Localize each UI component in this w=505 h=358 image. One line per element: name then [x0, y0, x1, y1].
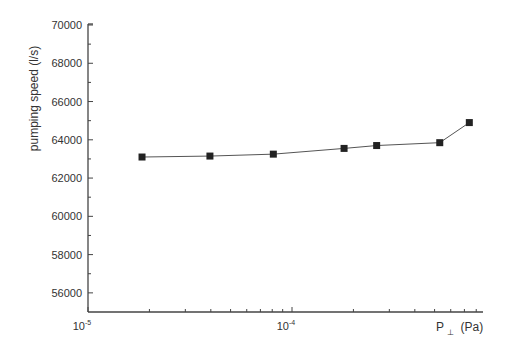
data-point-marker	[139, 154, 146, 161]
x-axis-ticks: 10-510-4	[73, 307, 476, 332]
y-tick-label: 56000	[51, 287, 82, 299]
x-tick-label: 10-4	[277, 319, 296, 332]
x-tick-label-exponent: -5	[85, 319, 91, 326]
y-tick-label: 62000	[51, 172, 82, 184]
x-axis-title-unit: (Pa)	[460, 320, 483, 334]
data-point-marker	[270, 151, 277, 158]
data-point-marker	[436, 139, 443, 146]
x-axis-title: P ⊥ (Pa)	[436, 320, 483, 338]
x-tick-label-exponent: -4	[289, 319, 295, 326]
x-axis-title-symbol: P	[436, 320, 444, 334]
y-tick-label: 70000	[51, 19, 82, 31]
y-tick-label: 64000	[51, 134, 82, 146]
chart: 5600058000600006200064000660006800070000…	[0, 0, 505, 358]
series-line	[142, 123, 469, 157]
data-point-marker	[373, 142, 380, 149]
y-tick-label: 66000	[51, 96, 82, 108]
y-tick-label: 68000	[51, 57, 82, 69]
y-axis-title: pumping speed (l/s)	[27, 46, 41, 151]
data-series	[139, 119, 473, 160]
y-tick-label: 60000	[51, 210, 82, 222]
axes	[88, 24, 483, 312]
x-tick-label-base: 10	[277, 320, 289, 332]
x-tick-label-base: 10	[73, 320, 85, 332]
y-tick-label: 58000	[51, 249, 82, 261]
y-axis-ticks: 5600058000600006200064000660006800070000	[51, 19, 93, 299]
data-point-marker	[341, 145, 348, 152]
data-point-marker	[466, 119, 473, 126]
x-axis-title-subscript: ⊥	[447, 328, 454, 337]
data-point-marker	[206, 153, 213, 160]
x-tick-label: 10-5	[73, 319, 92, 332]
